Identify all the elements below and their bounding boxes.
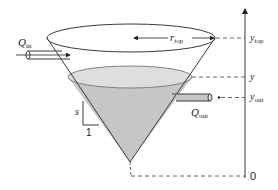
axis-label-ytop: ytop [249,32,264,45]
liquid-body [68,77,192,162]
radius-label: rtop [170,31,184,45]
inflow-label: Qin [18,36,32,50]
axis-label-zero: 0 [250,170,256,182]
liquid-surface [68,66,192,88]
axis-label-yout: yout [249,91,263,104]
slope-run-label: 1 [86,127,92,138]
slope-rise-label: s [75,106,79,117]
outflow-label: Qout [191,106,208,120]
conical-tank-diagram: Qin rtop Qout s 1 ytop y yout 0 [0,0,278,190]
axis-label-y: y [249,71,255,82]
top-rim [47,24,215,52]
outflow-pipe [172,94,220,101]
inflow-pipe [16,51,70,59]
apex-drop [130,162,131,176]
